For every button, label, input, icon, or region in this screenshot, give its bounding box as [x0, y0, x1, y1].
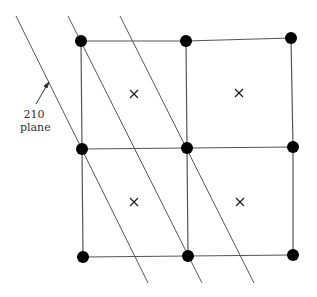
cross-icon — [130, 90, 138, 98]
plane-lines — [16, 16, 254, 283]
lattice-point — [285, 32, 297, 44]
lattice-point — [287, 249, 299, 261]
lattice-point — [77, 251, 89, 263]
lattice-point — [287, 141, 299, 153]
cross-icon — [236, 198, 244, 206]
cross-icon — [235, 89, 243, 97]
lattice-point — [181, 142, 193, 154]
plane-label: 210 plane — [20, 108, 48, 134]
plane-index: 210 — [20, 108, 48, 121]
lattice-diagram — [0, 0, 317, 297]
arrow-icon — [36, 82, 49, 104]
plane-word: plane — [20, 121, 48, 134]
lattice-point — [75, 35, 87, 47]
lattice-point — [180, 35, 192, 47]
lattice-point — [76, 143, 88, 155]
cross-icon — [130, 198, 138, 206]
lattice-point — [182, 250, 194, 262]
